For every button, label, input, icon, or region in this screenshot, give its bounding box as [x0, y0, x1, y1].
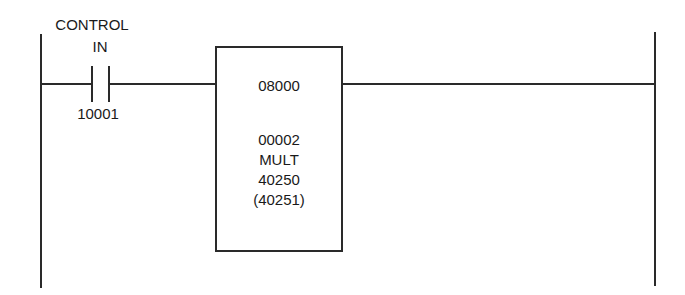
- block-operation: MULT: [217, 150, 341, 170]
- left-power-rail: [40, 34, 42, 288]
- mult-function-block: 08000 00002 MULT 40250 (40251): [215, 46, 343, 252]
- contact-label-control: CONTROL: [55, 16, 128, 33]
- rung-wire-contact-to-block: [109, 83, 216, 85]
- block-result-register-continued: (40251): [217, 190, 341, 210]
- contact-label-in: IN: [93, 38, 108, 55]
- rung-wire-left: [41, 83, 92, 85]
- rung-wire-block-to-right-rail: [341, 83, 655, 85]
- contact-bar-left: [91, 66, 93, 102]
- block-result-register: 40250: [217, 170, 341, 190]
- contact-address: 10001: [77, 105, 119, 122]
- block-top-register: 08000: [217, 76, 341, 96]
- right-power-rail: [654, 32, 656, 286]
- block-middle-register: 00002: [217, 130, 341, 150]
